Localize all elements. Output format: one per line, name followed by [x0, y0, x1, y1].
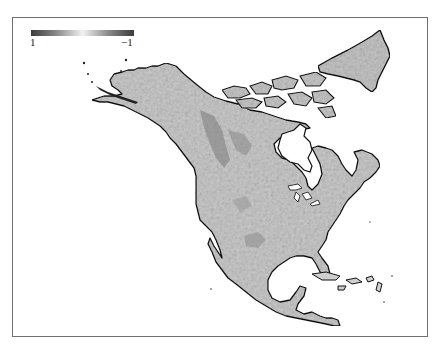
- legend-min-label: 1: [30, 37, 36, 48]
- north-america-map: [0, 0, 441, 350]
- caribbean-islands: [312, 272, 382, 292]
- legend-colorbar: [31, 30, 134, 36]
- greenland: [318, 30, 390, 92]
- legend-max-label: −1: [121, 37, 133, 48]
